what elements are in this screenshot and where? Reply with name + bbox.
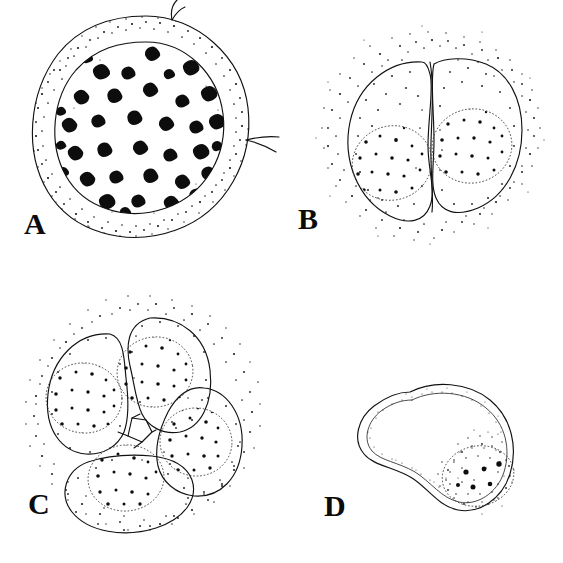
blastomere-left-outline (47, 334, 128, 454)
panel-d-later-embryo: D (282, 282, 563, 563)
nucleus-left-chromatin (54, 361, 115, 438)
panel-a-uncleaved-egg: A (0, 0, 281, 281)
nucleus-top-chromatin (124, 335, 191, 412)
yolk-granules (56, 46, 226, 217)
stippled-halo (25, 295, 261, 531)
panel-label-a: A (24, 209, 46, 239)
panel-label-b: B (298, 204, 318, 234)
nucleus-right (425, 101, 519, 190)
panel-label-c: C (28, 489, 50, 519)
panel-c-drawing (0, 282, 281, 563)
cell-mass-nuclei (456, 461, 502, 489)
panel-c-four-cell-stage: C (0, 282, 281, 563)
spine-projection-top (171, 0, 185, 20)
nucleus-right (157, 404, 236, 479)
cytoplasm-stipple (51, 321, 239, 531)
cell-mass-stipple (437, 429, 514, 514)
central-junction (118, 414, 156, 448)
cytoplasm-stipple (355, 59, 515, 207)
blastomere-right-outline (432, 59, 522, 213)
nucleus-bottom (85, 441, 167, 515)
blastomere-bottom-outline (65, 455, 193, 533)
outer-membrane (358, 384, 514, 510)
membrane-hatching (368, 388, 502, 488)
blastomere-right-outline (157, 388, 242, 496)
nucleus-left (343, 115, 442, 210)
cell-mass-texture (445, 447, 504, 502)
inner-membrane (367, 393, 507, 503)
panel-b-two-cell-stage: B (282, 0, 563, 281)
nucleus-bottom-chromatin (96, 443, 157, 506)
blastomere-left-outline (348, 62, 432, 221)
spine-projection-right (246, 137, 279, 152)
blastomere-top-outline (128, 318, 211, 433)
panel-b-drawing (282, 0, 563, 281)
nucleus-top (111, 331, 198, 413)
figure-root: A (0, 0, 563, 563)
panel-label-d: D (324, 491, 346, 521)
